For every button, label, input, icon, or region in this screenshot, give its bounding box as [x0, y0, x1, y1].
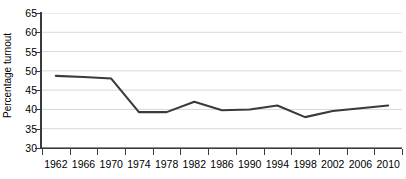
x-tick-mark-1	[70, 149, 71, 155]
x-tick-label-1998: 1998	[293, 158, 316, 170]
y-axis-title-text: Percentage turnout	[3, 32, 14, 117]
x-tick-label-1990: 1990	[238, 158, 261, 170]
percentage-turnout-line-chart: Percentage turnout 3035404550556065 1962…	[0, 0, 406, 179]
x-tick-mark-12	[374, 149, 375, 155]
x-tick-label-1994: 1994	[266, 158, 289, 170]
x-tick-mark-7	[236, 149, 237, 155]
x-tick-mark-2	[97, 149, 98, 155]
plot-svg	[42, 13, 402, 148]
y-tick-mark-30	[35, 148, 41, 149]
y-tick-mark-55	[35, 52, 41, 53]
x-tick-mark-6	[208, 149, 209, 155]
y-tick-mark-50	[35, 71, 41, 72]
x-tick-label-2010: 2010	[376, 158, 399, 170]
gridlines	[42, 13, 402, 148]
x-tick-mark-8	[264, 149, 265, 155]
x-tick-label-1982: 1982	[183, 158, 206, 170]
turnout-series-line	[56, 76, 388, 117]
x-tick-label-2006: 2006	[349, 158, 372, 170]
y-tick-mark-45	[35, 90, 41, 91]
y-axis-title: Percentage turnout	[0, 0, 16, 150]
x-tick-mark-4	[153, 149, 154, 155]
x-tick-label-1962: 1962	[44, 158, 67, 170]
x-tick-mark-13	[402, 149, 403, 155]
x-axis-tick-labels: 1962196619701974197819821986199019941998…	[42, 158, 402, 174]
plot-area	[42, 13, 402, 148]
x-tick-label-1970: 1970	[100, 158, 123, 170]
x-tick-mark-0	[42, 149, 43, 155]
x-tick-mark-10	[319, 149, 320, 155]
y-tick-mark-65	[35, 13, 41, 14]
x-tick-label-1966: 1966	[72, 158, 95, 170]
x-tick-label-1974: 1974	[127, 158, 150, 170]
y-tick-mark-35	[35, 129, 41, 130]
x-tick-label-1978: 1978	[155, 158, 178, 170]
x-tick-label-1986: 1986	[210, 158, 233, 170]
y-tick-mark-40	[35, 109, 41, 110]
x-tick-mark-11	[347, 149, 348, 155]
x-tick-mark-9	[291, 149, 292, 155]
y-tick-mark-60	[35, 32, 41, 33]
x-tick-mark-3	[125, 149, 126, 155]
x-tick-label-2002: 2002	[321, 158, 344, 170]
x-tick-mark-5	[180, 149, 181, 155]
